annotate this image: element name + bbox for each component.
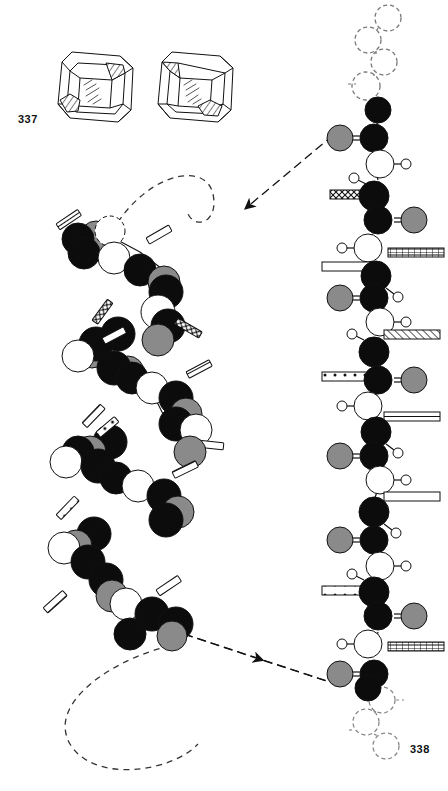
side-chain-bar bbox=[82, 404, 105, 428]
oxygen-sphere bbox=[327, 661, 353, 687]
oxygen-sphere bbox=[327, 285, 353, 311]
pointer-arrows bbox=[184, 126, 344, 684]
chain-residue bbox=[366, 150, 411, 178]
carbon-sphere bbox=[114, 618, 146, 650]
carbon-sphere bbox=[364, 602, 392, 630]
hydrogen-sphere bbox=[347, 329, 357, 339]
carbon-sphere bbox=[360, 442, 388, 470]
hydrogen-sphere bbox=[337, 639, 347, 649]
c-h-bond bbox=[386, 444, 394, 450]
arrow-to-chain-line bbox=[184, 634, 336, 684]
chain-residue bbox=[337, 392, 382, 420]
hydrogen-sphere bbox=[349, 173, 359, 183]
crystal-left-luster bbox=[84, 80, 101, 104]
side-chain-bar bbox=[146, 225, 172, 244]
nitrogen-sphere bbox=[366, 150, 394, 178]
hydrogen-sphere bbox=[337, 243, 347, 253]
carbon-sphere bbox=[365, 97, 391, 123]
nitrogen-sphere bbox=[366, 466, 394, 494]
hydrogen-sphere bbox=[401, 475, 411, 485]
extended-polypeptide-chain bbox=[322, 5, 444, 759]
side-chain-bar bbox=[56, 496, 79, 520]
side-chain-bar bbox=[43, 590, 67, 613]
side-chain-bar bbox=[186, 360, 212, 378]
carbon-sphere bbox=[149, 503, 183, 537]
c-h-bond bbox=[356, 336, 364, 340]
c-h-bond bbox=[384, 524, 392, 530]
oxygen-sphere bbox=[401, 603, 427, 629]
carbon-sphere bbox=[355, 675, 381, 701]
oxygen-sphere bbox=[327, 527, 353, 553]
chain-residue bbox=[347, 329, 440, 367]
chain-residue bbox=[366, 466, 411, 494]
helix-top-continuation-curve bbox=[118, 176, 214, 223]
c-h-bond bbox=[358, 180, 366, 184]
crystal-group bbox=[58, 52, 233, 122]
figure-plate: 337 338 bbox=[0, 0, 448, 791]
hydrogen-sphere bbox=[391, 528, 401, 538]
hydrogen-sphere bbox=[401, 561, 411, 571]
hydrogen-sphere bbox=[401, 317, 411, 327]
hydrogen-sphere bbox=[393, 292, 403, 302]
carbon-sphere bbox=[359, 497, 389, 527]
carbon-sphere bbox=[359, 337, 389, 367]
carbon-sphere bbox=[360, 124, 388, 152]
chain-residue bbox=[337, 234, 382, 262]
helix-residue bbox=[56, 209, 183, 309]
hydrogen-sphere bbox=[347, 569, 357, 579]
oxygen-sphere bbox=[401, 207, 427, 233]
oxygen-sphere bbox=[157, 621, 187, 651]
carbon-sphere bbox=[364, 366, 392, 394]
chain-residue bbox=[322, 366, 427, 394]
hydrogen-sphere bbox=[337, 401, 347, 411]
crystal-right bbox=[158, 52, 233, 122]
side-chain-bar bbox=[384, 492, 440, 501]
chain-residue bbox=[337, 630, 382, 658]
side-chain-bar bbox=[384, 412, 440, 421]
nitrogen-sphere bbox=[366, 552, 394, 580]
illustration-canvas bbox=[0, 0, 448, 791]
hydrogen-sphere bbox=[401, 159, 411, 169]
side-chain-bar bbox=[388, 642, 444, 651]
nitrogen-sphere bbox=[354, 630, 382, 658]
chain-residue bbox=[330, 173, 389, 211]
helix-bottom-continuation-curve bbox=[65, 646, 198, 770]
hydrogen-sphere bbox=[393, 448, 403, 458]
chain-residue bbox=[327, 526, 388, 554]
nitrogen-sphere bbox=[354, 392, 382, 420]
carbon-sphere bbox=[364, 206, 392, 234]
side-chain-bar bbox=[388, 248, 444, 257]
crystal-right-luster bbox=[184, 80, 201, 104]
oxygen-sphere bbox=[142, 324, 174, 356]
nitrogen-sphere bbox=[354, 234, 382, 262]
crystal-left bbox=[58, 52, 133, 122]
oxygen-sphere bbox=[327, 125, 353, 151]
oxygen-sphere bbox=[327, 443, 353, 469]
chain-residue bbox=[327, 97, 391, 152]
side-chain-bar bbox=[384, 330, 440, 339]
nitrogen-sphere bbox=[50, 446, 82, 478]
carbon-sphere bbox=[360, 526, 388, 554]
oxygen-sphere bbox=[401, 367, 427, 393]
carbon-sphere bbox=[68, 237, 100, 269]
alpha-helix-model bbox=[43, 209, 224, 651]
chain-residue bbox=[366, 552, 411, 580]
side-chain-bar bbox=[156, 575, 181, 595]
terminus-dashed-circle bbox=[95, 216, 125, 246]
c-h-bond bbox=[356, 576, 364, 580]
nitrogen-sphere bbox=[62, 340, 94, 372]
figure-number-337: 337 bbox=[18, 113, 38, 125]
figure-number-338: 338 bbox=[410, 743, 430, 755]
carbon-sphere bbox=[360, 284, 388, 312]
